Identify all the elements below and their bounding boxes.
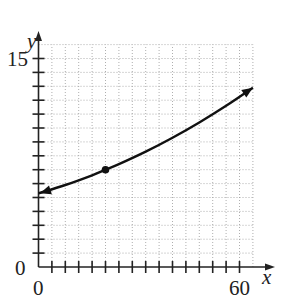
curve-left-arrow-icon (40, 186, 52, 195)
marked-point (102, 166, 110, 174)
exponential-graph: y x 15 0 0 60 (0, 0, 287, 307)
y-tick-label-max: 15 (7, 47, 28, 71)
data-points (102, 166, 110, 174)
x-axis-label: x (261, 265, 272, 289)
x-tick-label-origin: 0 (33, 276, 44, 300)
x-tick-label-max: 60 (229, 276, 250, 300)
grid-lines (39, 45, 253, 267)
curve-right-arrow-icon (241, 88, 253, 98)
axes (35, 31, 275, 271)
y-tick-label-origin: 0 (15, 256, 26, 280)
axis-ticks (33, 59, 240, 274)
